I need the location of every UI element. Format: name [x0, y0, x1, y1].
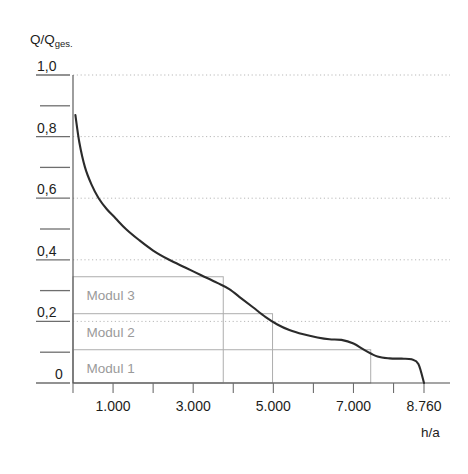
- gridline-group: [73, 75, 450, 321]
- y-tick-label-0_8: 0,8: [37, 120, 57, 136]
- chart-plot-area: 00,20,40,60,81,0 1.0003.0005.0007.0008.7…: [0, 0, 468, 474]
- y-tick-label-0_2: 0,2: [37, 304, 57, 320]
- y-tick-label-1_0: 1,0: [37, 58, 57, 74]
- y-tick-label-0_4: 0,4: [37, 243, 57, 259]
- y-tick-label-0_6: 0,6: [37, 181, 57, 197]
- x-tick-label-1000: 1.000: [96, 398, 131, 414]
- module-label-2: Modul 2: [87, 325, 135, 340]
- duration-curve: [75, 115, 424, 383]
- x-tick-label-8760: 8.760: [406, 398, 441, 414]
- load-duration-chart: 00,20,40,60,81,0 1.0003.0005.0007.0008.7…: [0, 0, 468, 474]
- x-tick-label-group: 1.0003.0005.0007.0008.760: [96, 398, 442, 414]
- y-axis-title: Q/Qges.: [30, 32, 73, 49]
- x-tick-label-3000: 3.000: [176, 398, 211, 414]
- x-axis-title: h/a: [421, 425, 440, 440]
- y-tick-label-group: 00,20,40,60,81,0: [37, 58, 63, 382]
- y-tick-label-0: 0: [55, 366, 63, 382]
- x-tick-label-7000: 7.000: [336, 398, 371, 414]
- module-label-1: Modul 3: [87, 288, 135, 303]
- x-tick-group: [73, 383, 424, 393]
- module-label-3: Modul 1: [87, 361, 135, 376]
- x-tick-label-5000: 5.000: [256, 398, 291, 414]
- module-label-group: Modul 3Modul 2Modul 1: [87, 288, 135, 375]
